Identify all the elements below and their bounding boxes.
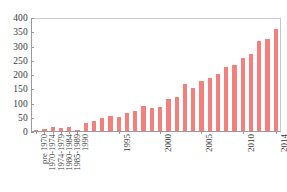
bar bbox=[224, 67, 228, 131]
y-axis-tick-label: 400 bbox=[13, 13, 28, 23]
y-axis-tick: 0 bbox=[23, 127, 28, 137]
bar bbox=[133, 111, 137, 131]
y-axis: 050100150200250300350400 bbox=[0, 18, 28, 132]
x-axis-tick-mark bbox=[44, 132, 45, 134]
y-axis-tick-label: 0 bbox=[23, 127, 28, 137]
bar bbox=[100, 118, 104, 131]
y-axis-tick: 150 bbox=[13, 84, 28, 94]
x-axis-tick-label: 1995 bbox=[123, 134, 132, 152]
x-axis: pre 19701970-19741974-19791980-19841985-… bbox=[32, 134, 280, 192]
bar bbox=[249, 54, 253, 131]
y-axis-tick-label: 350 bbox=[13, 27, 28, 37]
x-axis-tick-label: 2010 bbox=[247, 134, 256, 152]
bar bbox=[274, 29, 278, 131]
y-axis-tick: 200 bbox=[13, 70, 28, 80]
bar bbox=[191, 88, 195, 131]
bar bbox=[150, 108, 154, 131]
bar bbox=[117, 117, 121, 131]
bar bbox=[265, 39, 269, 131]
bar bbox=[59, 128, 63, 131]
bar bbox=[183, 84, 187, 131]
x-axis-tick-mark bbox=[53, 132, 54, 134]
y-axis-tick: 300 bbox=[13, 42, 28, 52]
bar-chart: 050100150200250300350400 pre 19701970-19… bbox=[0, 0, 287, 192]
bar bbox=[75, 130, 79, 131]
bar bbox=[84, 123, 88, 131]
x-axis-tick-mark bbox=[201, 132, 202, 134]
bar bbox=[232, 65, 236, 131]
y-axis-tick-mark bbox=[31, 18, 34, 19]
bar-series bbox=[32, 19, 280, 131]
x-axis-tick-label: 2000 bbox=[164, 134, 173, 152]
y-axis-tick-label: 50 bbox=[18, 113, 28, 123]
y-axis-tick-mark bbox=[31, 75, 34, 76]
y-axis-tick-label: 200 bbox=[13, 70, 28, 80]
x-axis-tick-mark bbox=[69, 132, 70, 134]
y-axis-tick-label: 300 bbox=[13, 42, 28, 52]
y-axis-tick-mark bbox=[31, 89, 34, 90]
bar bbox=[166, 99, 170, 131]
bar bbox=[92, 121, 96, 131]
x-axis-tick-mark bbox=[160, 132, 161, 134]
x-axis-tick-mark bbox=[61, 132, 62, 134]
y-axis-tick: 350 bbox=[13, 27, 28, 37]
y-axis-tick: 100 bbox=[13, 99, 28, 109]
bar bbox=[51, 127, 55, 131]
bar bbox=[208, 78, 212, 131]
y-axis-tick-label: 100 bbox=[13, 99, 28, 109]
x-axis-tick-mark bbox=[77, 132, 78, 134]
y-axis-tick-mark bbox=[31, 104, 34, 105]
bar bbox=[257, 41, 261, 131]
x-axis-tick-label: 2005 bbox=[205, 134, 214, 152]
bar bbox=[216, 74, 220, 131]
y-axis-tick-mark bbox=[31, 61, 34, 62]
bar bbox=[241, 58, 245, 131]
bar bbox=[158, 107, 162, 131]
bar bbox=[108, 116, 112, 131]
x-axis-tick-mark bbox=[243, 132, 244, 134]
bar bbox=[141, 106, 145, 131]
bar bbox=[67, 127, 71, 131]
y-axis-tick: 250 bbox=[13, 56, 28, 66]
y-axis-tick: 400 bbox=[13, 13, 28, 23]
y-axis-tick-mark bbox=[31, 32, 34, 33]
x-axis-tick-label: 1990 bbox=[81, 134, 90, 151]
y-axis-tick-label: 150 bbox=[13, 84, 28, 94]
x-axis-tick-label: 2014 bbox=[280, 134, 287, 152]
x-axis-tick-mark bbox=[119, 132, 120, 134]
bar bbox=[199, 81, 203, 131]
x-axis-tick-mark bbox=[276, 132, 277, 134]
bar bbox=[34, 130, 38, 131]
y-axis-tick-mark bbox=[31, 47, 34, 48]
x-axis-tick-mark bbox=[36, 132, 37, 134]
bar bbox=[125, 113, 129, 131]
bar bbox=[42, 129, 46, 131]
y-axis-tick-mark bbox=[31, 132, 34, 133]
y-axis-tick-mark bbox=[31, 118, 34, 119]
y-axis-tick: 50 bbox=[18, 113, 28, 123]
y-axis-tick-label: 250 bbox=[13, 56, 28, 66]
bar bbox=[175, 97, 179, 131]
